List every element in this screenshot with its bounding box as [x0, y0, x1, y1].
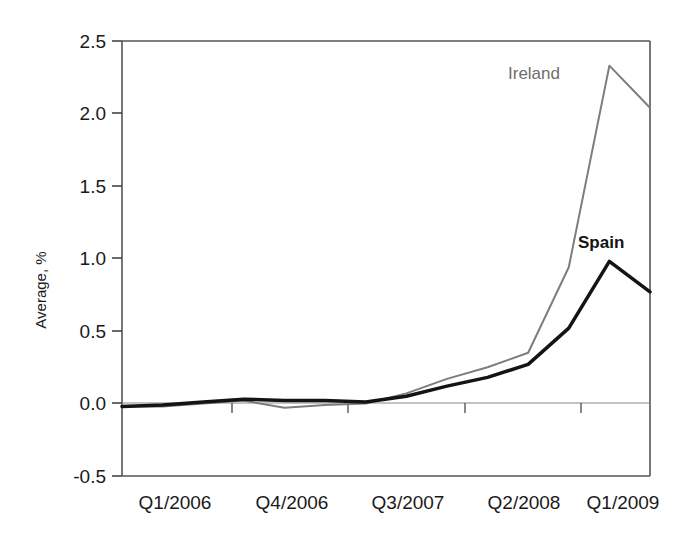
y-tick-label: 2.5 [80, 31, 106, 52]
x-tick-label: Q2/2008 [488, 492, 561, 513]
y-tick-label: -0.5 [73, 466, 106, 487]
series-line-ireland [122, 66, 650, 408]
x-tick-label: Q3/2007 [372, 492, 445, 513]
x-tick-label: Q4/2006 [256, 492, 329, 513]
y-axis-tick-labels: 2.5 2.0 1.5 1.0 0.5 0.0 -0.5 [73, 31, 106, 487]
x-tick-label: Q1/2006 [139, 492, 212, 513]
y-axis-title: Average, % [32, 251, 49, 328]
x-tick-label: Q1/2009 [587, 492, 660, 513]
y-tick-label: 0.5 [80, 321, 106, 342]
y-tick-label: 1.5 [80, 176, 106, 197]
y-tick-label: 2.0 [80, 103, 106, 124]
series-annotation-ireland: Ireland [508, 64, 560, 83]
y-tick-label: 1.0 [80, 248, 106, 269]
y-axis-ticks [112, 41, 122, 476]
y-tick-label: 0.0 [80, 393, 106, 414]
chart-container: 2.5 2.0 1.5 1.0 0.5 0.0 -0.5 Average, % … [0, 0, 683, 538]
x-axis-tick-labels: Q1/2006 Q4/2006 Q3/2007 Q2/2008 Q1/2009 [139, 492, 660, 513]
series-annotation-spain: Spain [578, 233, 624, 252]
line-chart: 2.5 2.0 1.5 1.0 0.5 0.0 -0.5 Average, % … [0, 0, 683, 538]
series-line-spain [122, 261, 650, 406]
